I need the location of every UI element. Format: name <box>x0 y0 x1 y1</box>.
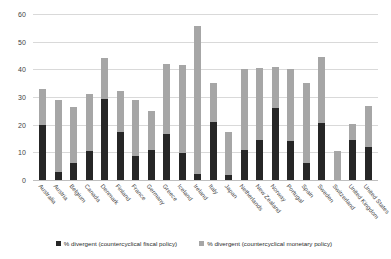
bar-stack[interactable] <box>117 91 124 180</box>
bar-group[interactable] <box>268 14 284 180</box>
bar-segment-fiscal[interactable] <box>272 108 279 180</box>
bar-segment-monetary[interactable] <box>70 107 77 164</box>
bar-stack[interactable] <box>318 57 325 180</box>
bar-segment-monetary[interactable] <box>349 124 356 141</box>
bar-stack[interactable] <box>241 69 248 180</box>
bar-group[interactable] <box>128 14 144 180</box>
bar-segment-monetary[interactable] <box>210 83 217 122</box>
bar-segment-fiscal[interactable] <box>287 141 294 180</box>
bar-segment-monetary[interactable] <box>334 151 341 180</box>
bar-group[interactable] <box>97 14 113 180</box>
chart-legend: % divergent (countercyclical fiscal poli… <box>0 240 388 247</box>
bar-stack[interactable] <box>210 83 217 180</box>
bar-segment-monetary[interactable] <box>179 65 186 154</box>
bar-segment-fiscal[interactable] <box>365 147 372 180</box>
bar-segment-fiscal[interactable] <box>225 175 232 180</box>
bar-segment-fiscal[interactable] <box>148 150 155 180</box>
x-axis-label-cell: Portugal <box>283 181 299 237</box>
bar-segment-fiscal[interactable] <box>101 99 108 180</box>
bar-group[interactable] <box>345 14 361 180</box>
bar-segment-fiscal[interactable] <box>179 153 186 180</box>
bar-stack[interactable] <box>349 124 356 180</box>
bar-segment-fiscal[interactable] <box>132 156 139 180</box>
bar-segment-monetary[interactable] <box>86 94 93 151</box>
bar-segment-monetary[interactable] <box>303 83 310 163</box>
bar-segment-monetary[interactable] <box>163 64 170 134</box>
bar-segment-monetary[interactable] <box>287 69 294 141</box>
bar-segment-monetary[interactable] <box>318 57 325 123</box>
bar-segment-fiscal[interactable] <box>86 151 93 180</box>
bar-segment-monetary[interactable] <box>101 58 108 99</box>
bar-group[interactable] <box>314 14 330 180</box>
bar-stack[interactable] <box>256 68 263 180</box>
bar-segment-fiscal[interactable] <box>349 140 356 180</box>
bar-stack[interactable] <box>132 100 139 180</box>
bar-group[interactable] <box>361 14 377 180</box>
y-axis-tick-label: 0 <box>22 177 26 184</box>
bar-group[interactable] <box>144 14 160 180</box>
y-axis-tick-label: 30 <box>18 94 26 101</box>
x-axis-label-cell: Norway <box>268 181 284 237</box>
bar-stack[interactable] <box>194 26 201 180</box>
bar-group[interactable] <box>237 14 253 180</box>
bar-stack[interactable] <box>334 151 341 180</box>
bar-segment-fiscal[interactable] <box>55 172 62 180</box>
bar-segment-fiscal[interactable] <box>117 132 124 180</box>
bar-stack[interactable] <box>55 100 62 180</box>
x-axis-label-cell: Germany <box>144 181 160 237</box>
bar-stack[interactable] <box>179 65 186 180</box>
bar-stack[interactable] <box>225 132 232 180</box>
bar-stack[interactable] <box>39 89 46 180</box>
bar-stack[interactable] <box>70 107 77 180</box>
bar-stack[interactable] <box>101 58 108 180</box>
bar-group[interactable] <box>51 14 67 180</box>
bar-group[interactable] <box>190 14 206 180</box>
x-axis-label-cell: Spain <box>299 181 315 237</box>
bar-segment-monetary[interactable] <box>194 26 201 173</box>
bar-segment-monetary[interactable] <box>225 132 232 175</box>
bar-segment-monetary[interactable] <box>241 69 248 149</box>
x-axis-label-cell: New Zealand <box>252 181 268 237</box>
bar-segment-fiscal[interactable] <box>210 122 217 180</box>
bar-stack[interactable] <box>163 64 170 180</box>
bar-segment-fiscal[interactable] <box>256 140 263 180</box>
bar-stack[interactable] <box>303 83 310 180</box>
bar-segment-fiscal[interactable] <box>70 163 77 180</box>
bar-segment-fiscal[interactable] <box>303 163 310 180</box>
bar-group[interactable] <box>35 14 51 180</box>
bar-segment-fiscal[interactable] <box>39 125 46 180</box>
plot-area <box>33 14 378 180</box>
bar-segment-monetary[interactable] <box>117 91 124 131</box>
bar-group[interactable] <box>252 14 268 180</box>
bar-group[interactable] <box>82 14 98 180</box>
bar-group[interactable] <box>221 14 237 180</box>
bar-stack[interactable] <box>148 111 155 180</box>
bar-stack[interactable] <box>272 67 279 180</box>
x-axis-label-cell: Finland <box>113 181 129 237</box>
bar-segment-fiscal[interactable] <box>318 123 325 180</box>
bar-group[interactable] <box>159 14 175 180</box>
bar-stack[interactable] <box>365 106 372 180</box>
bar-group[interactable] <box>175 14 191 180</box>
bar-segment-fiscal[interactable] <box>241 150 248 180</box>
bar-segment-monetary[interactable] <box>132 100 139 156</box>
x-axis-label: Italy <box>208 183 220 195</box>
bar-group[interactable] <box>66 14 82 180</box>
bar-segment-monetary[interactable] <box>365 106 372 147</box>
bar-stack[interactable] <box>287 69 294 180</box>
bar-group[interactable] <box>113 14 129 180</box>
bar-group[interactable] <box>330 14 346 180</box>
bar-segment-monetary[interactable] <box>55 100 62 172</box>
bar-segment-monetary[interactable] <box>148 111 155 150</box>
bar-segment-fiscal[interactable] <box>194 174 201 180</box>
x-axis-label-cell: Greece <box>159 181 175 237</box>
bar-group[interactable] <box>283 14 299 180</box>
bar-segment-monetary[interactable] <box>272 67 279 109</box>
bar-stack[interactable] <box>86 94 93 180</box>
x-axis-label-cell: Iceland <box>175 181 191 237</box>
bar-group[interactable] <box>206 14 222 180</box>
bar-segment-fiscal[interactable] <box>163 134 170 180</box>
bar-group[interactable] <box>299 14 315 180</box>
bar-segment-monetary[interactable] <box>39 89 46 126</box>
bar-segment-monetary[interactable] <box>256 68 263 140</box>
